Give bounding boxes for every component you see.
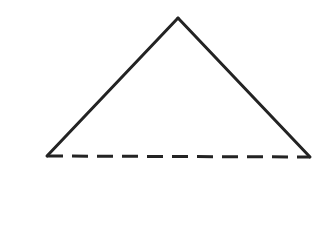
triangle-figure-svg: [0, 0, 323, 249]
